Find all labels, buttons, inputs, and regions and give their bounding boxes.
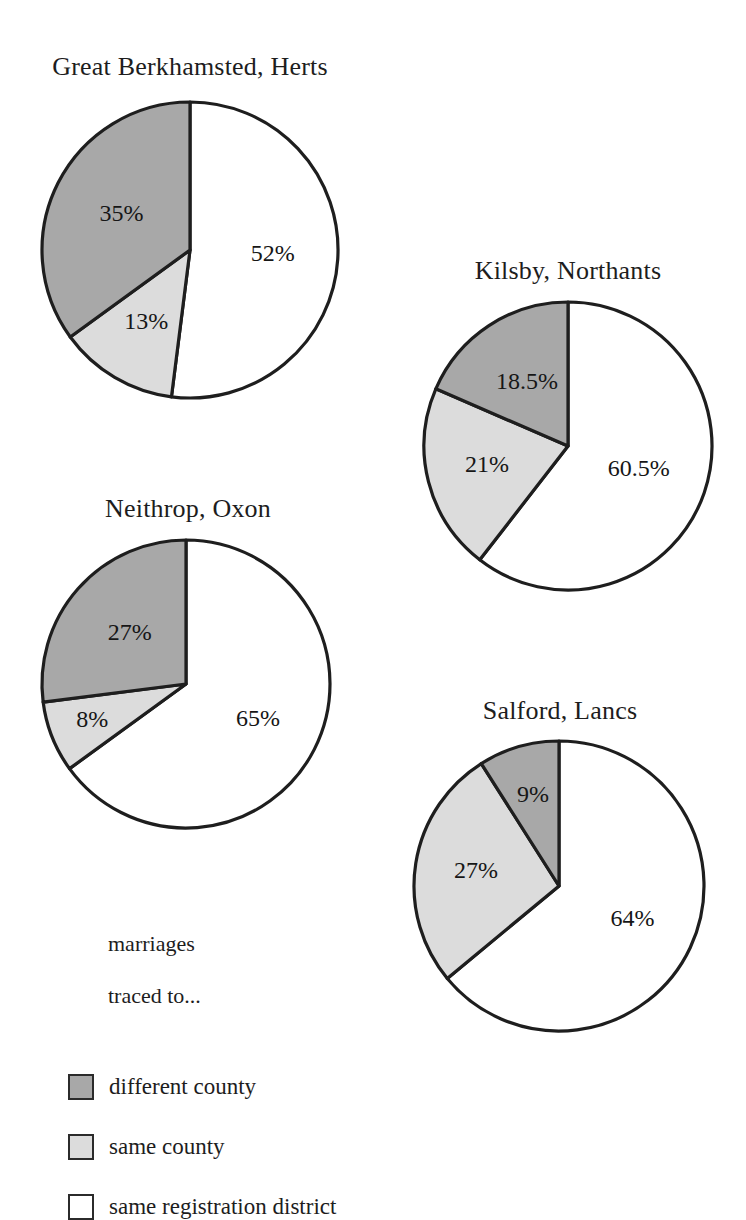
pie-slice-label: 13% (124, 308, 168, 334)
pie-slice-label: 52% (251, 240, 295, 266)
pie-slices-kilsby (424, 302, 712, 590)
chart-title-neithrop: Neithrop, Oxon (40, 494, 336, 524)
pie-slices-neithrop (42, 540, 330, 828)
pie-svg-salford: 64%27%9% (412, 740, 708, 1040)
legend-swatch-different-county (68, 1074, 94, 1100)
chart-kilsby: Kilsby, Northants 60.5%21%18.5% (420, 256, 716, 606)
pie-slice-label: 64% (611, 905, 655, 931)
legend-heading-line-2: traced to... (108, 983, 428, 1009)
pie-slices-salford (414, 741, 704, 1031)
legend-heading: marriages traced to... (108, 905, 428, 1035)
chart-salford: Salford, Lancs 64%27%9% (412, 696, 708, 1046)
chart-neithrop: Neithrop, Oxon 65%8%27% (40, 494, 336, 844)
pie-slice-label: 27% (454, 857, 498, 883)
chart-title-salford: Salford, Lancs (412, 696, 708, 726)
chart-title-great-berkhamsted: Great Berkhamsted, Herts (40, 52, 340, 82)
pie-slice-label: 8% (76, 706, 108, 732)
chart-title-kilsby: Kilsby, Northants (420, 256, 716, 286)
legend-swatch-same-registration-district (68, 1194, 94, 1220)
legend-swatch-same-county (68, 1134, 94, 1160)
legend-item-same-county[interactable]: same county (68, 1134, 428, 1160)
chart-great-berkhamsted: Great Berkhamsted, Herts 52%13%35% (40, 52, 340, 412)
pie-slice-label: 18.5% (496, 368, 558, 394)
legend-item-different-county[interactable]: different county (68, 1074, 428, 1100)
legend-label-different-county: different county (109, 1074, 256, 1100)
pie-svg-great-berkhamsted: 52%13%35% (40, 96, 340, 406)
legend-item-same-registration-district[interactable]: same registration district (68, 1194, 428, 1220)
legend: marriages traced to... different county … (68, 905, 428, 1220)
legend-heading-line-1: marriages (108, 931, 428, 957)
pie-slice-label: 21% (465, 451, 509, 477)
pie-svg-kilsby: 60.5%21%18.5% (420, 300, 716, 600)
pie-svg-neithrop: 65%8%27% (40, 538, 336, 838)
pie-slice-label: 60.5% (608, 455, 670, 481)
pie-slice-label: 35% (99, 200, 143, 226)
pie-slice-label: 65% (236, 705, 280, 731)
pie-slice-label: 9% (517, 781, 549, 807)
legend-label-same-county: same county (109, 1134, 225, 1160)
pie-slice-label: 27% (108, 619, 152, 645)
legend-label-same-registration-district: same registration district (109, 1194, 336, 1220)
